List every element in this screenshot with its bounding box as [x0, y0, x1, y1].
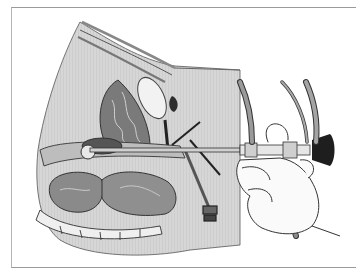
anatomical-illustration [0, 0, 357, 274]
gloved-hand [237, 158, 340, 236]
bowel [49, 172, 176, 216]
